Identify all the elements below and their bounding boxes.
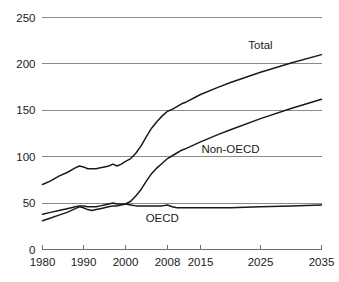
series-label-total: Total <box>248 39 272 51</box>
x-tick-label-2008: 2008 <box>155 256 181 268</box>
y-tick-label-0: 0 <box>29 244 35 256</box>
x-tick-label-2000: 2000 <box>113 256 139 268</box>
x-tick-label-2035: 2035 <box>309 256 335 268</box>
x-axis-tick-labels: 1980199020002008201520252035 <box>30 256 335 268</box>
series-line-non-oecd <box>43 99 322 221</box>
x-axis-group <box>42 245 322 250</box>
x-tick-label-1980: 1980 <box>30 256 56 268</box>
gridlines-group <box>42 18 322 204</box>
series-line-total <box>43 55 322 185</box>
x-tick-label-2025: 2025 <box>248 256 274 268</box>
y-tick-label-250: 250 <box>16 12 35 24</box>
y-axis-tick-labels: 050100150200250 <box>16 12 35 256</box>
chart-container: 050100150200250 198019902000200820152025… <box>0 0 339 282</box>
series-lines-group <box>43 55 322 221</box>
series-label-non-oecd: Non-OECD <box>201 143 259 155</box>
y-tick-label-200: 200 <box>16 58 35 70</box>
x-tick-label-2015: 2015 <box>188 256 214 268</box>
y-tick-label-150: 150 <box>16 104 35 116</box>
series-label-oecd: OECD <box>146 212 179 224</box>
x-tick-label-1990: 1990 <box>71 256 97 268</box>
series-annotations-group: TotalNon-OECDOECD <box>146 39 273 224</box>
line-chart: 050100150200250 198019902000200820152025… <box>0 0 339 282</box>
y-tick-label-50: 50 <box>23 197 36 209</box>
y-tick-label-100: 100 <box>16 151 35 163</box>
